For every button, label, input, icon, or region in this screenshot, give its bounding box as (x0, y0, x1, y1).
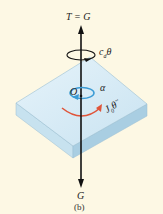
origin-label: O (70, 87, 77, 97)
figure-caption: (b) (74, 203, 85, 212)
up-arrowhead-icon (78, 25, 84, 34)
damping-theta: θ (106, 46, 111, 57)
alpha-label: α (100, 83, 105, 93)
down-arrowhead-icon (78, 179, 84, 188)
diagram-canvas (0, 0, 163, 214)
origin-point (80, 95, 83, 98)
torsional-pendulum-diagram: T = G cdθ O α J0θ̈ G (b) (0, 0, 163, 214)
top-force-label: T = G (66, 12, 90, 22)
bottom-force-label: G (77, 191, 84, 201)
damping-torque-label: cdθ (99, 47, 111, 59)
